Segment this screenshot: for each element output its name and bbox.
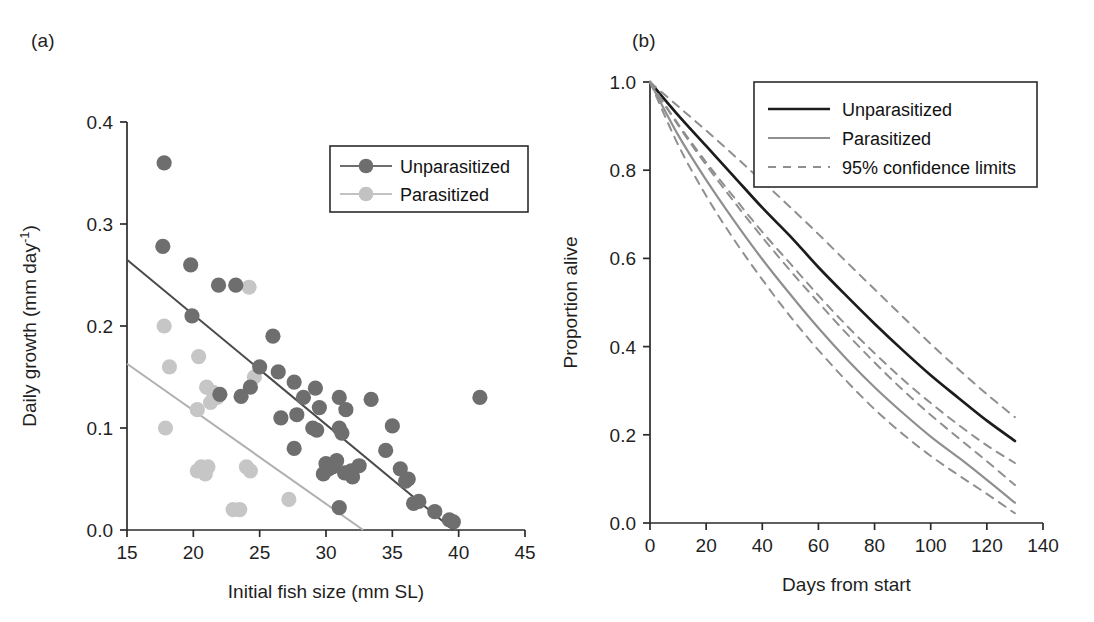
x-tick-label: 20 <box>183 542 204 563</box>
panel-b-plot: 0204060801001201400.00.20.40.60.81.0Days… <box>547 0 1094 622</box>
scatter-point <box>271 364 286 379</box>
scatter-point <box>345 469 360 484</box>
y-axis-title-group: Daily growth (mm day-1) <box>17 225 40 427</box>
legend-label: Parasitized <box>842 129 931 149</box>
y-tick-label: 0.4 <box>87 112 114 133</box>
legend-marker-icon <box>359 187 374 202</box>
x-tick-label: 60 <box>808 535 829 556</box>
y-tick-label: 0.6 <box>610 248 636 269</box>
scatter-point <box>281 492 296 507</box>
scatter-point <box>446 514 461 529</box>
legend-marker-icon <box>359 159 374 174</box>
scatter-point <box>228 278 243 293</box>
scatter-point <box>338 402 353 417</box>
y-tick-label: 0.3 <box>87 214 113 235</box>
x-tick-label: 45 <box>514 542 535 563</box>
scatter-point <box>155 239 170 254</box>
panel-a: (a) 152025303540450.00.10.20.30.4Initial… <box>0 0 547 622</box>
scatter-point <box>265 329 280 344</box>
legend-label: Parasitized <box>400 185 489 205</box>
scatter-point <box>316 466 331 481</box>
x-tick-label: 0 <box>645 535 656 556</box>
scatter-point <box>241 280 256 295</box>
y-tick-label: 1.0 <box>610 72 636 93</box>
x-tick-label: 80 <box>864 535 885 556</box>
x-tick-label: 140 <box>1027 535 1059 556</box>
scatter-point <box>308 381 323 396</box>
scatter-point <box>411 494 426 509</box>
x-tick-label: 20 <box>696 535 717 556</box>
x-tick-label: 40 <box>752 535 773 556</box>
scatter-point <box>191 349 206 364</box>
y-axis-title-group: Proportion alive <box>560 236 581 368</box>
panel-b-legend: UnparasitizedParasitized95% confidence l… <box>754 82 1037 187</box>
x-tick-label: 35 <box>382 542 403 563</box>
scatter-point <box>364 392 379 407</box>
y-tick-label: 0.1 <box>87 418 113 439</box>
scatter-point <box>427 504 442 519</box>
x-tick-label: 100 <box>915 535 947 556</box>
y-tick-label: 0.0 <box>87 520 113 541</box>
scatter-point <box>243 463 258 478</box>
scatter-point <box>200 459 215 474</box>
x-tick-label: 25 <box>249 542 270 563</box>
scatter-point <box>162 359 177 374</box>
scatter-point <box>472 390 487 405</box>
x-tick-label: 120 <box>971 535 1003 556</box>
x-axis-title: Days from start <box>782 574 912 595</box>
scatter-point <box>273 410 288 425</box>
y-tick-label: 0.4 <box>610 337 637 358</box>
legend-label: 95% confidence limits <box>842 158 1016 178</box>
y-tick-label: 0.8 <box>610 160 636 181</box>
y-axis-title: Daily growth (mm day-1) <box>17 225 40 427</box>
panel-a-legend: UnparasitizedParasitized <box>330 146 528 212</box>
y-axis-title: Proportion alive <box>560 236 581 368</box>
y-tick-label: 0.2 <box>87 316 113 337</box>
scatter-point <box>287 375 302 390</box>
scatter-point <box>289 407 304 422</box>
legend-label: Unparasitized <box>842 100 952 120</box>
scatter-point <box>232 502 247 517</box>
figure-root: (a) 152025303540450.00.10.20.30.4Initial… <box>0 0 1094 622</box>
legend-label: Unparasitized <box>400 157 510 177</box>
scatter-point <box>332 500 347 515</box>
x-tick-label: 30 <box>315 542 336 563</box>
scatter-point <box>158 420 173 435</box>
scatter-point <box>243 380 258 395</box>
scatter-point <box>211 278 226 293</box>
scatter-point <box>157 155 172 170</box>
scatter-point <box>309 422 324 437</box>
scatter-point <box>334 426 349 441</box>
scatter-point <box>190 402 205 417</box>
scatter-point <box>296 390 311 405</box>
scatter-point <box>184 308 199 323</box>
scatter-point <box>401 471 416 486</box>
scatter-point <box>212 387 227 402</box>
scatter-point <box>378 443 393 458</box>
x-tick-label: 40 <box>448 542 469 563</box>
scatter-point <box>385 418 400 433</box>
scatter-point <box>312 400 327 415</box>
regression-line <box>127 260 453 530</box>
scatter-point <box>183 257 198 272</box>
panel-b: (b) 0204060801001201400.00.20.40.60.81.0… <box>547 0 1094 622</box>
y-tick-label: 0.0 <box>610 513 636 534</box>
scatter-point <box>287 441 302 456</box>
scatter-point <box>252 359 267 374</box>
x-axis-title: Initial fish size (mm SL) <box>228 581 424 602</box>
scatter-point <box>157 318 172 333</box>
x-tick-label: 15 <box>116 542 137 563</box>
panel-a-plot: 152025303540450.00.10.20.30.4Initial fis… <box>0 0 547 622</box>
y-tick-label: 0.2 <box>610 425 636 446</box>
